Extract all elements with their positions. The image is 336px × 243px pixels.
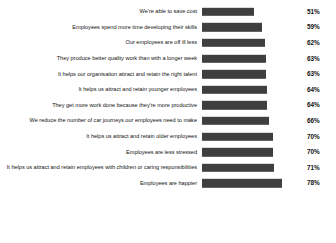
bar-rows-container: We're able to save cost51%Employees spen… — [0, 4, 336, 191]
bar-value-label: 70% — [304, 133, 336, 141]
bar-track — [202, 144, 304, 160]
bar-fill — [202, 8, 254, 16]
bar-fill — [202, 70, 266, 78]
bar-value-label: 64% — [304, 101, 336, 109]
bar-track — [202, 98, 304, 114]
bar-row: It helps us attract and retain younger e… — [0, 82, 336, 98]
bar-value-label: 51% — [304, 8, 336, 16]
bar-fill — [202, 164, 274, 172]
bar-row: It helps our organisation attract and re… — [0, 66, 336, 82]
bar-row: Employees are less stressed70% — [0, 144, 336, 160]
bar-track — [202, 66, 304, 82]
bar-category-label: It helps our organisation attract and re… — [0, 71, 202, 78]
bar-fill — [202, 23, 262, 31]
bar-row: Employees are happier78% — [0, 176, 336, 192]
bar-category-label: We're able to save cost — [0, 8, 202, 15]
bar-row: We reduce the number of car journeys our… — [0, 113, 336, 129]
bar-category-label: It helps us attract and retain older emp… — [0, 133, 202, 140]
bar-fill — [202, 148, 273, 156]
bar-value-label: 66% — [304, 117, 336, 125]
bar-category-label: Our employees are off ill less — [0, 39, 202, 46]
bar-fill — [202, 101, 267, 109]
horizontal-bar-chart: We're able to save cost51%Employees spen… — [0, 0, 336, 243]
bar-category-label: It helps us attract and retain employees… — [0, 164, 202, 171]
bar-value-label: 71% — [304, 164, 336, 172]
bar-value-label: 78% — [304, 179, 336, 187]
bar-row: We're able to save cost51% — [0, 4, 336, 20]
bar-category-label: They produce better quality work than wi… — [0, 55, 202, 62]
bar-category-label: We reduce the number of car journeys our… — [0, 117, 202, 124]
bar-row: They get more work done because they're … — [0, 98, 336, 114]
bar-track — [202, 82, 304, 98]
bar-fill — [202, 132, 273, 140]
bar-category-label: They get more work done because they're … — [0, 102, 202, 109]
bar-value-label: 63% — [304, 70, 336, 78]
bar-row: Our employees are off ill less62% — [0, 35, 336, 51]
bar-track — [202, 35, 304, 51]
bar-fill — [202, 86, 267, 94]
bar-track — [202, 160, 304, 176]
bar-row: It helps us attract and retain employees… — [0, 160, 336, 176]
bar-value-label: 59% — [304, 23, 336, 31]
bar-category-label: It helps us attract and retain younger e… — [0, 86, 202, 93]
bar-row: They produce better quality work than wi… — [0, 51, 336, 67]
bar-track — [202, 129, 304, 145]
bar-row: Employees spend more time developing the… — [0, 20, 336, 36]
bar-fill — [202, 39, 265, 47]
bar-value-label: 64% — [304, 86, 336, 94]
bar-fill — [202, 54, 266, 62]
bar-row: It helps us attract and retain older emp… — [0, 129, 336, 145]
bar-track — [202, 51, 304, 67]
bar-value-label: 62% — [304, 39, 336, 47]
bar-track — [202, 20, 304, 36]
bar-track — [202, 4, 304, 20]
bar-value-label: 70% — [304, 148, 336, 156]
bar-track — [202, 113, 304, 129]
bar-value-label: 63% — [304, 55, 336, 63]
bar-fill — [202, 179, 282, 187]
bar-fill — [202, 117, 269, 125]
bar-category-label: Employees spend more time developing the… — [0, 24, 202, 31]
bar-category-label: Employees are less stressed — [0, 149, 202, 156]
bar-category-label: Employees are happier — [0, 180, 202, 187]
bar-track — [202, 176, 304, 192]
